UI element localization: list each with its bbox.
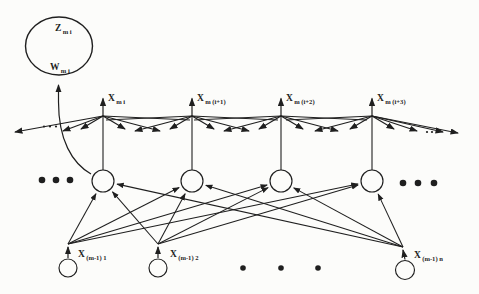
layer-m-column-2: X m (i+1) (106, 93, 278, 192)
ellipsis-dot (436, 131, 438, 133)
mid-row-right-ellipsis (400, 180, 438, 187)
fan-right-ellipsis (426, 131, 438, 133)
ellipsis-dot (431, 180, 438, 187)
layer-m-column-4: X m (i+3) (286, 93, 458, 192)
bottom-row-ellipsis (240, 265, 321, 271)
ellipsis-dot (426, 131, 428, 133)
ellipsis-dot (315, 265, 321, 271)
ellipsis-dot (400, 180, 407, 187)
ellipsis-dot (240, 265, 246, 271)
layer-m-unit-circle (270, 170, 292, 192)
ellipsis-dot (415, 180, 422, 187)
ellipsis-dot (43, 125, 45, 127)
x-m-label-3: X m (i+2) (286, 93, 315, 106)
diagram-canvas: Z m iW m iX m iX m (i+1)X m (i+2)X m (i+… (0, 0, 479, 294)
input-feed-2: X (m-1) 2 (113, 185, 359, 277)
ellipsis-dot (55, 125, 57, 127)
input-unit-circle (396, 261, 415, 280)
input-label-2: X (m-1) 2 (170, 249, 199, 262)
layer-m-unit-circle (92, 170, 114, 192)
ellipsis-dot (431, 131, 433, 133)
feedback-arrow (59, 85, 92, 174)
ellipsis-dot (39, 177, 46, 184)
ellipsis-dot (53, 177, 60, 184)
w-label: W m i (50, 62, 70, 74)
input-unit-circle (149, 259, 167, 277)
fan-left-ellipsis (43, 125, 57, 127)
input-label-3: X (m-1) n (414, 250, 443, 263)
x-m-label-4: X m (i+3) (377, 93, 406, 106)
ellipsis-dot (67, 177, 74, 184)
x-m-label-1: X m i (108, 93, 125, 105)
mid-row-left-ellipsis (39, 177, 74, 184)
ellipsis-dot (278, 265, 284, 271)
x-m-label-2: X m (i+1) (197, 93, 226, 106)
z-label: Z m i (55, 23, 72, 35)
input-unit-circle (59, 259, 77, 277)
output-unit: Z m iW m i (26, 17, 93, 174)
layer-m-unit-circle (361, 170, 383, 192)
input-label-1: X (m-1) 1 (78, 249, 107, 262)
layer-m-column-3: X m (i+2) (194, 93, 367, 192)
ellipsis-dot (49, 125, 51, 127)
layer-m-unit-circle (181, 170, 203, 192)
network-diagram: Z m iW m iX m iX m (i+1)X m (i+2)X m (i+… (0, 0, 479, 294)
